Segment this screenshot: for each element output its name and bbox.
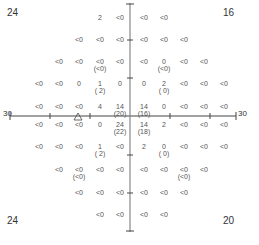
threshold-value: 14(20)	[108, 103, 132, 117]
threshold-retest: ( 2)	[88, 150, 112, 157]
threshold-value: <0	[212, 103, 236, 110]
threshold-main: <0	[108, 143, 132, 150]
threshold-value: <0	[212, 121, 236, 128]
threshold-retest: ( 0)	[152, 87, 176, 94]
threshold-main: <0	[212, 143, 236, 150]
threshold-value: <0	[172, 189, 196, 196]
threshold-main: 0	[108, 80, 132, 87]
quadrant-total-bottom-right: 20	[223, 215, 234, 226]
threshold-value: <0	[192, 58, 216, 65]
threshold-value: 24(22)	[108, 121, 132, 135]
threshold-value: <0	[108, 189, 132, 196]
threshold-value: <0	[108, 36, 132, 43]
threshold-main: <0	[108, 36, 132, 43]
threshold-retest: ( 0)	[152, 150, 176, 157]
threshold-main: <0	[192, 58, 216, 65]
threshold-value: <0	[108, 211, 132, 218]
threshold-value: <0	[212, 143, 236, 150]
threshold-value: 0	[108, 80, 132, 87]
threshold-main: <0	[108, 14, 132, 21]
threshold-retest: (20)	[108, 110, 132, 117]
threshold-retest: (18)	[132, 128, 156, 135]
threshold-main: <0	[152, 14, 176, 21]
axis-label-left: 30	[3, 109, 12, 118]
threshold-main: <0	[212, 121, 236, 128]
threshold-main: <0	[108, 58, 132, 65]
threshold-main: <0	[108, 211, 132, 218]
threshold-retest: (<0)	[67, 173, 91, 180]
threshold-retest: (22)	[108, 128, 132, 135]
threshold-retest: (16)	[132, 110, 156, 117]
threshold-main: <0	[212, 103, 236, 110]
quadrant-total-bottom-left: 24	[7, 215, 18, 226]
threshold-main: <0	[192, 166, 216, 173]
threshold-main: <0	[172, 189, 196, 196]
threshold-value: <0	[152, 211, 176, 218]
threshold-main: <0	[172, 36, 196, 43]
quadrant-total-top-right: 16	[223, 7, 234, 18]
threshold-main: 24	[108, 121, 132, 128]
threshold-main: <0	[108, 189, 132, 196]
threshold-main: <0	[108, 166, 132, 173]
threshold-retest: (<0)	[152, 65, 176, 72]
threshold-value: <0	[152, 14, 176, 21]
threshold-value: <0	[108, 143, 132, 150]
threshold-value: <0	[192, 166, 216, 173]
threshold-value: <0	[108, 166, 132, 173]
threshold-retest: (<0)	[172, 173, 196, 180]
quadrant-total-top-left: 24	[7, 7, 18, 18]
axis-label-right: 30	[238, 109, 247, 118]
threshold-retest: (<0)	[88, 65, 112, 72]
threshold-value: <0	[108, 14, 132, 21]
threshold-value: <0	[172, 36, 196, 43]
threshold-main: <0	[152, 211, 176, 218]
threshold-retest: ( 2)	[88, 87, 112, 94]
threshold-value: <0	[212, 80, 236, 87]
threshold-value: <0	[108, 58, 132, 65]
threshold-main: 14	[108, 103, 132, 110]
threshold-main: <0	[212, 80, 236, 87]
